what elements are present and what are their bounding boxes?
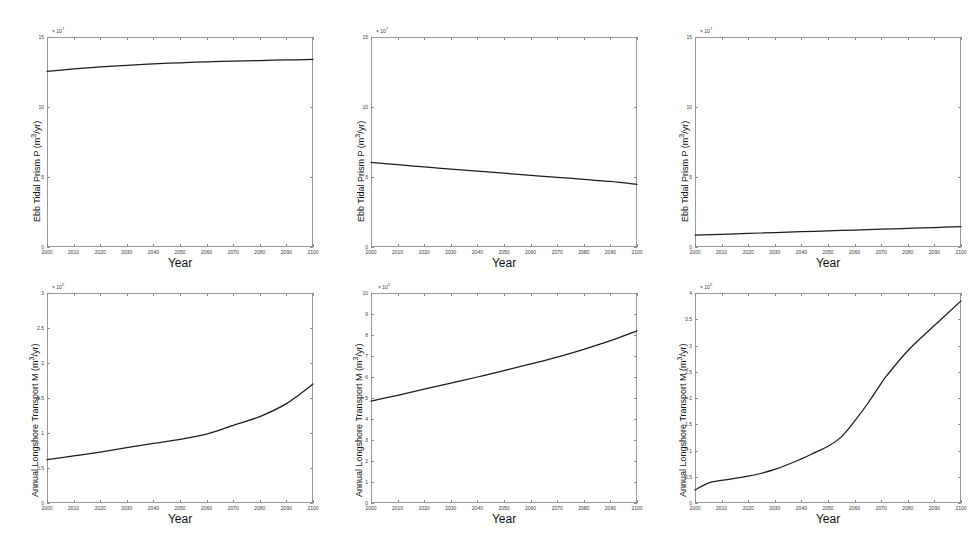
- y-tick-mark: [958, 398, 961, 399]
- y-tick-mark: [371, 461, 374, 462]
- y-tick-mark: [371, 177, 374, 178]
- x-tick-mark: [127, 37, 128, 40]
- x-tick-mark: [233, 244, 234, 247]
- x-tick-mark: [881, 500, 882, 503]
- x-tick-mark: [74, 37, 75, 40]
- x-tick-label: 2060: [201, 249, 212, 255]
- x-tick-label: 2040: [796, 505, 807, 511]
- y-tick-mark: [310, 107, 313, 108]
- y-tick-mark: [371, 419, 374, 420]
- y-tick-label: 15: [673, 34, 692, 40]
- x-tick-mark: [74, 244, 75, 247]
- y-tick-label: 10: [349, 104, 368, 110]
- x-tick-label: 2070: [552, 505, 563, 511]
- y-tick-mark: [371, 356, 374, 357]
- x-tick-label: 2070: [552, 249, 563, 255]
- x-tick-label: 2100: [307, 505, 318, 511]
- y-tick-mark: [634, 314, 637, 315]
- x-tick-mark: [531, 500, 532, 503]
- x-tick-mark: [47, 244, 48, 247]
- y-tick-label: 5: [349, 174, 368, 180]
- y-tick-mark: [634, 377, 637, 378]
- subplot-panel-3: × 107 Ebb Tidal Prism P (m3/yr) Year 051…: [648, 0, 972, 274]
- x-tick-label: 2020: [419, 505, 430, 511]
- x-tick-mark: [504, 244, 505, 247]
- y-tick-mark: [310, 177, 313, 178]
- x-tick-label: 2100: [955, 249, 966, 255]
- y-tick-label: 10: [349, 290, 368, 296]
- y-tick-label: 6: [349, 374, 368, 380]
- y-tick-label: 15: [349, 34, 368, 40]
- x-tick-label: 2010: [716, 505, 727, 511]
- y-tick-mark: [958, 451, 961, 452]
- x-tick-label: 2020: [419, 249, 430, 255]
- x-tick-label: 2050: [174, 249, 185, 255]
- x-tick-mark: [313, 293, 314, 296]
- x-tick-mark: [477, 37, 478, 40]
- x-tick-mark: [695, 37, 696, 40]
- y-tick-mark: [634, 177, 637, 178]
- x-tick-label: 2050: [822, 249, 833, 255]
- subplot-panel-5: × 105 Annual Longshore Transport M (m3/y…: [324, 275, 648, 549]
- subplot-panel-4: × 105 Annual Longshore Transport M (m3/y…: [0, 275, 324, 549]
- y-tick-label: 3: [25, 290, 44, 296]
- x-tick-mark: [934, 293, 935, 296]
- y-tick-label: 10: [25, 104, 44, 110]
- x-tick-mark: [424, 37, 425, 40]
- y-tick-mark: [47, 468, 50, 469]
- x-tick-mark: [828, 293, 829, 296]
- x-tick-mark: [398, 244, 399, 247]
- x-tick-mark: [908, 244, 909, 247]
- x-tick-mark: [637, 37, 638, 40]
- x-tick-mark: [286, 37, 287, 40]
- y-tick-mark: [47, 328, 50, 329]
- x-tick-mark: [313, 37, 314, 40]
- y-tick-mark: [958, 477, 961, 478]
- x-tick-mark: [260, 293, 261, 296]
- x-tick-mark: [855, 244, 856, 247]
- y-tick-mark: [310, 433, 313, 434]
- y-tick-mark: [634, 335, 637, 336]
- x-tick-label: 2060: [849, 249, 860, 255]
- y-tick-mark: [695, 247, 698, 248]
- y-tick-mark: [958, 319, 961, 320]
- x-tick-label: 2090: [605, 249, 616, 255]
- x-tick-label: 2050: [498, 249, 509, 255]
- x-tick-label: 2070: [228, 505, 239, 511]
- x-tick-label: 2080: [254, 505, 265, 511]
- x-tick-mark: [961, 500, 962, 503]
- y-tick-mark: [958, 372, 961, 373]
- x-tick-label: 2040: [148, 249, 159, 255]
- y-tick-mark: [634, 419, 637, 420]
- y-tick-label: 10: [673, 104, 692, 110]
- x-tick-label: 2000: [689, 249, 700, 255]
- x-tick-label: 2050: [822, 505, 833, 511]
- x-tick-mark: [47, 293, 48, 296]
- x-tick-mark: [451, 37, 452, 40]
- x-tick-label: 2030: [769, 505, 780, 511]
- x-tick-mark: [722, 37, 723, 40]
- x-tick-mark: [557, 293, 558, 296]
- x-tick-mark: [775, 500, 776, 503]
- y-tick-mark: [634, 440, 637, 441]
- y-tick-label: 2.5: [25, 325, 44, 331]
- x-tick-mark: [748, 244, 749, 247]
- x-tick-mark: [934, 500, 935, 503]
- y-tick-mark: [310, 363, 313, 364]
- y-tick-mark: [695, 107, 698, 108]
- y-tick-mark: [634, 503, 637, 504]
- x-tick-mark: [398, 500, 399, 503]
- x-tick-mark: [722, 500, 723, 503]
- x-tick-mark: [127, 293, 128, 296]
- x-tick-mark: [371, 244, 372, 247]
- x-tick-mark: [233, 37, 234, 40]
- y-tick-mark: [371, 107, 374, 108]
- x-tick-mark: [557, 244, 558, 247]
- y-tick-label: 2.5: [673, 369, 692, 375]
- subplot-panel-6: × 105 Annual Longshore Transport M (m3/y…: [648, 275, 972, 549]
- y-tick-mark: [310, 398, 313, 399]
- x-tick-mark: [801, 293, 802, 296]
- x-tick-mark: [451, 500, 452, 503]
- y-tick-mark: [695, 477, 698, 478]
- y-tick-mark: [47, 503, 50, 504]
